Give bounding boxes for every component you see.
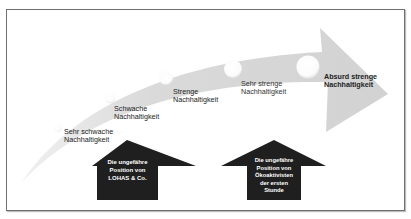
stage-circle-3 <box>159 71 173 85</box>
progression-arrow <box>22 28 388 182</box>
stage-label-3: Strenge Nachhaltigkeit <box>173 88 218 105</box>
stage-label-5: Absurd strenge Nachhaltigkeit <box>324 73 377 90</box>
stage-label-1: Sehr schwache Nachhaltigkeit <box>64 128 113 145</box>
stage-circle-5 <box>297 56 320 79</box>
stage-label-4: Sehr strenge Nachhaltigkeit <box>241 80 286 97</box>
diagram-canvas <box>0 0 411 219</box>
stage-circle-1 <box>54 124 61 131</box>
stage-circle-2 <box>105 93 115 103</box>
marker-text-oekoaktivisten: Die ungefähre Position von Ökoaktivisten… <box>247 157 301 195</box>
stage-label-2: Schwache Nachhaltigkeit <box>114 105 159 122</box>
marker-text-lohas: Die ungefähre Position von LOHAS & Co. <box>97 158 158 182</box>
stage-circle-4 <box>224 60 242 78</box>
